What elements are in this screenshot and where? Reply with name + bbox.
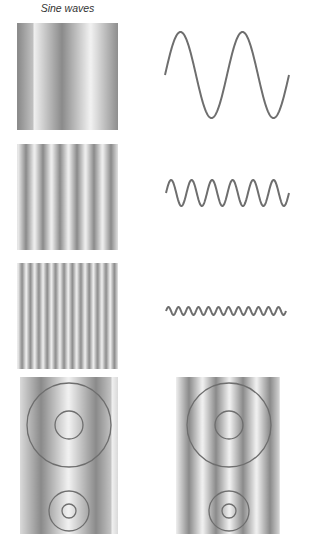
circle-overlay	[0, 0, 311, 534]
circle-outline	[187, 383, 271, 467]
circle-outline	[27, 383, 111, 467]
circle-outline	[55, 411, 83, 439]
circle-outline	[209, 491, 249, 531]
circle-outline	[49, 491, 89, 531]
circle-outline	[215, 411, 243, 439]
circle-outline	[62, 504, 76, 518]
circle-outline	[222, 504, 236, 518]
